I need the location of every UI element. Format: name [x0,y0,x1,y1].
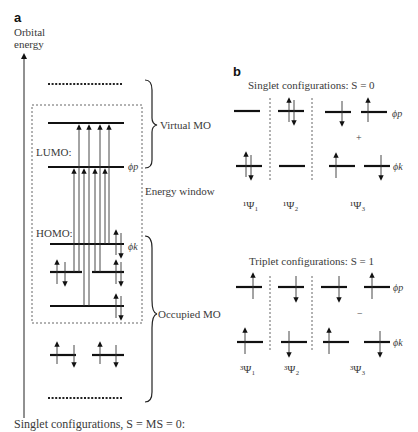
energy-window-label: Energy window [145,185,215,197]
mo-diagram: a Orbital energy LUMO: ϕp HOMO: ϕk [0,0,418,432]
panel-a-label: a [14,10,22,25]
triplet-phi-p: ϕp [393,282,403,293]
triplet-psi3 [321,275,390,355]
excitation-arrows-to-virtual [79,127,109,306]
singlet-psi2 [278,100,305,166]
singlet-phi-p: ϕp [392,108,402,119]
panel-b-label: b [233,64,241,79]
panel-a: a Orbital energy LUMO: ϕp HOMO: ϕk [14,10,221,418]
triplet-minus-sign: − [357,308,363,319]
singlet-psi1 [234,111,262,178]
triplet-psi2 [278,276,307,355]
phi-k-label: ϕk [128,241,138,252]
lumo-label: LUMO: [36,146,71,158]
phi-p-label: ϕp [128,161,138,172]
triplet-state-3: ³Ψ₃ [350,363,365,375]
footer-caption: Singlet configurations, S = MS = 0: [14,417,185,431]
virtual-mo-brace [145,80,157,168]
panel-b: b Singlet configurations: S = 0 [233,64,403,375]
energy-window-box [32,105,142,323]
triplet-title: Triplet configurations: S = 1 [249,255,374,267]
virtual-mo-label: Virtual MO [160,119,211,131]
triplet-state-2: ³Ψ₂ [284,363,299,375]
occupied-mo-brace [145,236,157,402]
singlet-state-2: ¹Ψ₂ [283,199,298,211]
singlet-plus-sign: + [356,132,362,143]
axis-label-energy: energy [14,38,44,50]
singlet-state-3: ¹Ψ₃ [350,199,365,211]
axis-label-orbital: Orbital [14,26,45,38]
homo-label: HOMO: [36,227,73,239]
triplet-phi-k: ϕk [393,337,403,348]
occupied-mo-label: Occupied MO [158,308,221,320]
singlet-phi-k: ϕk [393,161,403,172]
singlet-state-1: ¹Ψ₁ [243,199,258,211]
triplet-psi1 [236,275,263,354]
singlet-title: Singlet configurations: S = 0 [248,79,375,91]
triplet-state-1: ³Ψ₁ [240,363,255,375]
